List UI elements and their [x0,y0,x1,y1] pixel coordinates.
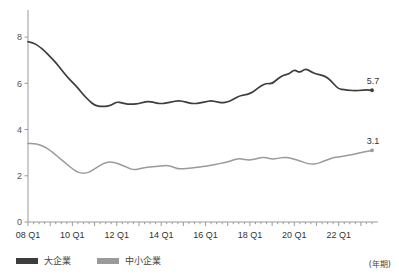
x-tick-label: 22 Q1 [326,230,351,240]
y-tick-label: 6 [17,79,22,89]
line-chart: 02468 08 Q110 Q112 Q114 Q116 Q118 Q120 Q… [0,0,399,276]
x-tick-label: 14 Q1 [149,230,174,240]
legend-item-large: 大企業 [16,254,71,267]
legend-item-sme: 中小企業 [97,254,161,267]
chart-container: 02468 08 Q110 Q112 Q114 Q116 Q118 Q120 Q… [0,0,399,276]
y-tick-label: 0 [17,217,22,227]
line-sme [28,143,372,173]
end-value-label: 5.7 [367,76,380,86]
legend-label-large: 大企業 [44,254,71,267]
legend-swatch-sme [97,258,119,264]
legend-label-sme: 中小企業 [125,254,161,267]
x-tick-label: 18 Q1 [238,230,263,240]
end-value-label: 3.1 [367,136,380,146]
series-end-labels: 5.73.1 [367,76,380,152]
series-lines [28,42,372,173]
x-axis-unit-note: (年期) [369,258,391,269]
chart-legend: 大企業 中小企業 [16,254,161,267]
x-tick-label: 10 Q1 [60,230,85,240]
y-tick-label: 2 [17,171,22,181]
end-point-marker [370,148,374,152]
x-tick-label: 20 Q1 [282,230,307,240]
x-axis: 08 Q110 Q112 Q114 Q116 Q118 Q120 Q122 Q1 [16,222,378,240]
y-tick-label: 8 [17,32,22,42]
x-tick-label: 08 Q1 [16,230,41,240]
x-tick-label: 16 Q1 [193,230,218,240]
legend-swatch-large [16,258,38,264]
x-tick-label: 12 Q1 [105,230,130,240]
y-tick-label: 4 [17,125,22,135]
line-large-enterprises [28,42,372,107]
y-axis: 02468 [17,10,28,227]
end-point-marker [370,88,374,92]
